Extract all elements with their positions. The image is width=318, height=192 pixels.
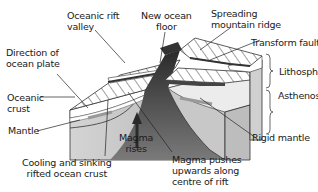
label-direction-ocean-plate: Direction ofocean plate (6, 47, 60, 69)
label-asthenosphere: Asthenosphere (278, 90, 318, 101)
label-transform-fault: Transform fault (251, 37, 318, 48)
label-cooling-sinking: Cooling and sinkingrifted ocean crust (22, 157, 112, 179)
label-mantle: Mantle (8, 125, 39, 136)
label-magma-pushes: Magma pushesupwards alongcentre of rift (172, 154, 242, 187)
label-new-ocean-floor: New oceanfloor (141, 10, 192, 32)
label-spreading-ridge: Spreadingmountain ridge (211, 8, 281, 30)
label-magma-rises: Magmarises (119, 132, 153, 154)
layer-braces (266, 54, 273, 134)
label-oceanic-crust: Oceaniccrust (7, 92, 44, 114)
label-lithosphere: Lithosphere (279, 66, 318, 77)
label-rigid-mantle: Rigid mantle (252, 132, 310, 143)
label-oceanic-rift-valley: Oceanic riftvalley (67, 10, 119, 32)
